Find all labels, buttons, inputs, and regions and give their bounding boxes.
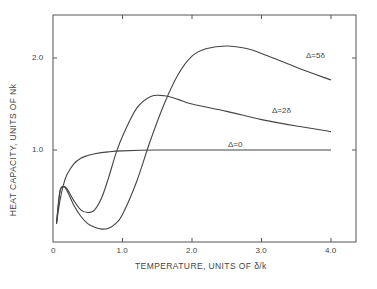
y-tick-label: 1.0	[32, 145, 43, 154]
y-axis-title: HEAT CAPACITY, UNITS OF Nk	[8, 84, 18, 217]
curve-delta-0	[56, 150, 331, 224]
x-tick-label: 4.0	[325, 246, 336, 255]
y-tick-label: 2.0	[32, 53, 43, 62]
x-tick-label: 3.0	[256, 246, 267, 255]
x-tick-label: 2.0	[186, 246, 197, 255]
curve-delta-5	[56, 46, 331, 229]
curve-delta-5-label: Δ=5δ	[306, 51, 325, 60]
x-axis-title: TEMPERATURE, UNITS OF δ/k	[135, 261, 267, 271]
x-tick-label: 1.0	[117, 246, 128, 255]
curve-delta-0-label: Δ=0	[228, 140, 242, 149]
x-tick-label: 0	[51, 246, 55, 255]
curve-delta-2-label: Δ=2δ	[272, 106, 291, 115]
